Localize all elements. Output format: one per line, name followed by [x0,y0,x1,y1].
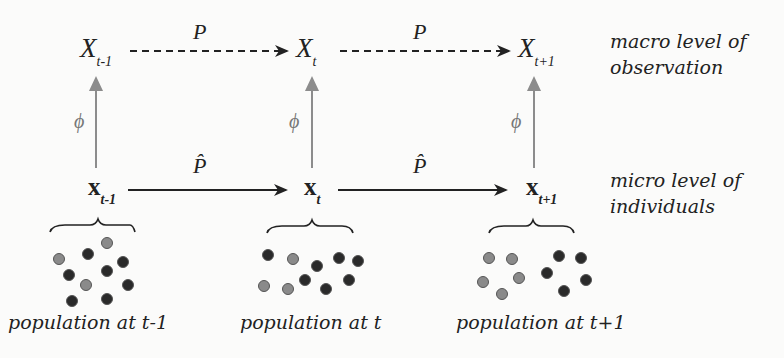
brace-3 [489,220,574,233]
macro-level-label-line-1: macro level of [610,28,746,54]
individual-dot-dark [312,261,323,272]
population-1-dots [54,238,134,307]
individual-dot-dark [559,286,570,297]
population-label-3: population at t+1 [456,311,625,333]
individual-dot-light [283,284,294,295]
macro-node-t-minus-1: Xt-1 [80,33,112,70]
micro-node-t: xt [304,173,320,208]
brace-2 [267,220,353,233]
individual-dot-dark [581,275,592,286]
individual-dot-light [497,289,508,300]
micro-level-label-line-2: individuals [610,193,741,219]
macro-node-t-plus-1: Xt+1 [518,33,555,70]
individual-dot-light [54,254,65,265]
individual-dot-dark [64,270,75,281]
mapping-label-2: ϕ [289,110,299,133]
macro-level-label-line-2: observation [610,54,746,80]
mapping-label-3: ϕ [511,110,521,133]
macro-transition-label-2: P [413,19,426,45]
individual-dot-dark [334,253,345,264]
individual-dot-dark [118,257,129,268]
individual-dot-dark [300,275,311,286]
macro-node-t: Xt [296,33,316,70]
individual-dot-dark [576,253,587,264]
individual-dot-light [478,277,489,288]
individual-dot-light [81,280,92,291]
population-label-1: population at t-1 [8,311,168,333]
individual-dot-dark [344,275,355,286]
micro-transition-label-1: P̂ [193,153,206,179]
individual-dot-dark [321,284,332,295]
individual-dot-dark [263,250,274,261]
individual-dot-dark [102,266,113,277]
mapping-arrow-2 [305,76,319,168]
individual-dot-light [507,254,518,265]
macro-level-label: macro level of observation [610,28,746,80]
individual-dot-dark [353,256,364,267]
individual-dot-light [102,238,113,249]
individual-dot-light [288,254,299,265]
individual-dot-dark [67,296,78,307]
mapping-label-1: ϕ [74,110,84,133]
individual-dot-dark [102,294,113,305]
individual-dot-dark [123,280,134,291]
individual-dot-light [259,281,270,292]
micro-transition-label-2: P̂ [413,153,426,179]
mapping-arrow-1 [89,76,103,168]
individual-dot-dark [542,268,553,279]
mapping-arrow-3 [527,76,541,168]
micro-level-label-line-1: micro level of [610,167,741,193]
individual-dot-dark [554,251,565,262]
individual-dot-light [484,253,495,264]
micro-node-t-minus-1: xt-1 [88,173,116,208]
population-3-dots [478,251,592,300]
individual-dot-light [514,273,525,284]
population-label-2: population at t [240,311,381,333]
brace-1 [50,219,135,232]
population-2-dots [259,250,364,295]
micro-node-t-plus-1: xt+1 [526,173,557,208]
individual-dot-dark [83,249,94,260]
micro-level-label: micro level of individuals [610,167,741,219]
macro-transition-label-1: P [193,19,206,45]
